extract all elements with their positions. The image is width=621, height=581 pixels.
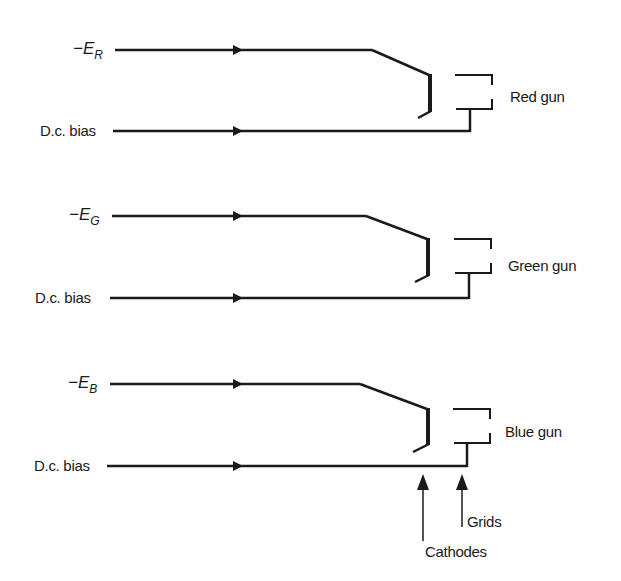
green-signal-diagonal <box>366 216 427 239</box>
green-gun-label: Green gun <box>508 258 576 273</box>
red-signal-label: −ER <box>73 40 103 61</box>
red-bias-arrow <box>233 126 243 136</box>
red-grid-bracket-bottom <box>456 99 492 109</box>
blue-signal-arrow <box>233 379 243 389</box>
blue-bias-label: D.c. bias <box>34 458 90 473</box>
blue-grid-bracket-bottom <box>454 433 490 443</box>
blue-gun-label: Blue gun <box>505 424 562 439</box>
blue-bias-arrow <box>233 461 243 471</box>
red-signal-diagonal <box>372 50 429 75</box>
cathodes-label: Cathodes <box>425 544 487 559</box>
green-cathode-foot <box>415 275 429 282</box>
blue-signal-diagonal <box>360 384 427 409</box>
red-signal-arrow <box>233 45 243 55</box>
grids-label: Grids <box>467 514 501 529</box>
green-signal-arrow <box>233 211 243 221</box>
green-grid-bracket-top <box>454 239 491 249</box>
green-bias-label: D.c. bias <box>35 290 91 305</box>
green-signal-label-main: −E <box>69 205 90 224</box>
green-signal-label-sub: G <box>90 214 99 228</box>
blue-cathode-foot <box>413 444 429 452</box>
annotation-arrows <box>417 474 468 541</box>
green-gun-group <box>110 211 491 303</box>
red-signal-label-sub: R <box>94 48 103 62</box>
blue-gun-group <box>107 379 490 471</box>
blue-signal-label: −EB <box>68 374 97 395</box>
blue-signal-label-sub: B <box>89 382 97 396</box>
blue-signal-label-main: −E <box>68 373 89 392</box>
red-cathode-foot <box>418 111 431 118</box>
red-gun-label: Red gun <box>510 89 565 104</box>
green-grid-bracket-bottom <box>455 263 491 273</box>
green-bias-arrow <box>233 293 243 303</box>
grids-pointer-arrowhead <box>456 474 468 490</box>
red-signal-label-main: −E <box>73 39 94 58</box>
blue-grid-bracket-top <box>453 409 490 419</box>
red-grid-bracket-top <box>455 75 492 85</box>
green-signal-label: −EG <box>69 206 100 227</box>
red-bias-label: D.c. bias <box>40 123 96 138</box>
red-gun-group <box>113 45 492 136</box>
cathodes-pointer-arrowhead <box>417 474 429 490</box>
